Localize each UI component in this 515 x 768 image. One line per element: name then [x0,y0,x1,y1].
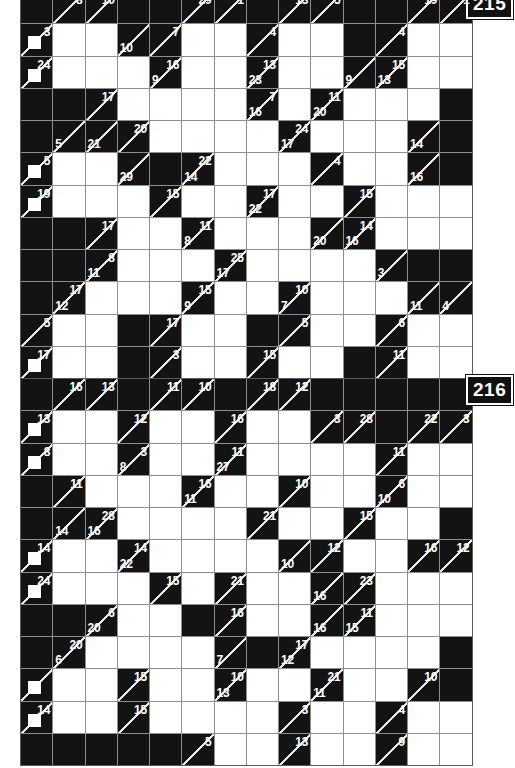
entry-cell[interactable] [440,605,471,636]
entry-cell[interactable] [86,573,117,604]
entry-cell[interactable] [344,444,375,475]
entry-cell[interactable] [408,315,439,346]
entry-cell[interactable] [118,508,149,539]
entry-cell[interactable] [408,508,439,539]
entry-cell[interactable] [247,573,278,604]
entry-cell[interactable] [279,573,310,604]
entry-cell[interactable] [311,637,342,668]
entry-cell[interactable] [53,153,84,184]
entry-cell[interactable] [150,89,181,120]
entry-cell[interactable] [150,218,181,249]
entry-cell[interactable] [86,411,117,442]
entry-cell[interactable] [440,573,471,604]
entry-cell[interactable] [344,702,375,733]
entry-cell[interactable] [118,218,149,249]
entry-cell[interactable] [279,89,310,120]
entry-cell[interactable] [279,411,310,442]
entry-cell[interactable] [86,637,117,668]
entry-cell[interactable] [118,89,149,120]
kakuro-grid-216[interactable]: 1613111018121312163282238381127111116111… [20,378,473,766]
entry-cell[interactable] [150,476,181,507]
entry-cell[interactable] [376,637,407,668]
entry-cell[interactable] [279,57,310,88]
entry-cell[interactable] [344,476,375,507]
entry-cell[interactable] [344,89,375,120]
entry-cell[interactable] [53,540,84,571]
entry-cell[interactable] [440,57,471,88]
entry-cell[interactable] [182,250,213,281]
entry-cell[interactable] [215,218,246,249]
entry-cell[interactable] [182,669,213,700]
entry-cell[interactable] [150,250,181,281]
entry-cell[interactable] [376,282,407,313]
entry-cell[interactable] [150,637,181,668]
entry-cell[interactable] [150,702,181,733]
entry-cell[interactable] [118,57,149,88]
entry-cell[interactable] [150,508,181,539]
entry-cell[interactable] [376,89,407,120]
entry-cell[interactable] [247,153,278,184]
entry-cell[interactable] [118,476,149,507]
entry-cell[interactable] [279,508,310,539]
grid-cells-215[interactable]: 8102911351913107442416913239151317716112… [21,0,472,378]
entry-cell[interactable] [376,121,407,152]
entry-cell[interactable] [53,57,84,88]
entry-cell[interactable] [182,24,213,55]
entry-cell[interactable] [150,282,181,313]
entry-cell[interactable] [118,637,149,668]
entry-cell[interactable] [215,702,246,733]
entry-cell[interactable] [279,444,310,475]
entry-cell[interactable] [150,605,181,636]
entry-cell[interactable] [53,573,84,604]
entry-cell[interactable] [311,702,342,733]
entry-cell[interactable] [215,347,246,378]
entry-cell[interactable] [408,637,439,668]
entry-cell[interactable] [182,121,213,152]
entry-cell[interactable] [215,315,246,346]
entry-cell[interactable] [53,411,84,442]
entry-cell[interactable] [86,669,117,700]
entry-cell[interactable] [86,476,117,507]
entry-cell[interactable] [215,508,246,539]
entry-cell[interactable] [311,24,342,55]
entry-cell[interactable] [247,669,278,700]
entry-cell[interactable] [182,637,213,668]
grid-cells-216[interactable]: 1613111018121312163282238381127111116111… [21,379,472,765]
entry-cell[interactable] [182,411,213,442]
entry-cell[interactable] [344,121,375,152]
entry-cell[interactable] [182,508,213,539]
entry-cell[interactable] [344,540,375,571]
entry-cell[interactable] [311,508,342,539]
entry-cell[interactable] [86,444,117,475]
entry-cell[interactable] [440,702,471,733]
entry-cell[interactable] [86,282,117,313]
entry-cell[interactable] [86,702,117,733]
entry-cell[interactable] [247,476,278,507]
entry-cell[interactable] [279,347,310,378]
entry-cell[interactable] [53,669,84,700]
entry-cell[interactable] [118,605,149,636]
entry-cell[interactable] [53,186,84,217]
entry-cell[interactable] [311,282,342,313]
entry-cell[interactable] [182,573,213,604]
entry-cell[interactable] [440,444,471,475]
entry-cell[interactable] [376,669,407,700]
entry-cell[interactable] [182,186,213,217]
entry-cell[interactable] [182,315,213,346]
entry-cell[interactable] [86,540,117,571]
entry-cell[interactable] [376,573,407,604]
entry-cell[interactable] [247,702,278,733]
entry-cell[interactable] [215,57,246,88]
entry-cell[interactable] [311,315,342,346]
entry-cell[interactable] [344,315,375,346]
entry-cell[interactable] [311,57,342,88]
entry-cell[interactable] [311,186,342,217]
entry-cell[interactable] [440,476,471,507]
entry-cell[interactable] [311,121,342,152]
entry-cell[interactable] [86,24,117,55]
entry-cell[interactable] [440,315,471,346]
entry-cell[interactable] [215,89,246,120]
entry-cell[interactable] [182,702,213,733]
entry-cell[interactable] [182,444,213,475]
entry-cell[interactable] [311,347,342,378]
